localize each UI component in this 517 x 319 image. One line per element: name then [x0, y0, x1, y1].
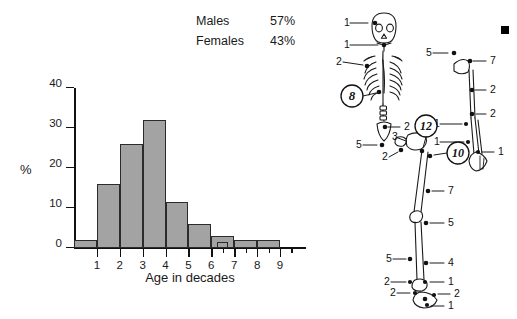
- age-histogram: % 010203040123456789 Age in decades: [0, 78, 330, 293]
- x-tick-minor: [246, 248, 247, 253]
- x-tick: [143, 248, 144, 257]
- histogram-bar: [143, 120, 166, 248]
- x-tick-minor: [291, 248, 292, 253]
- histogram-bar: [166, 202, 189, 248]
- legend-row-males: Males 57%: [196, 14, 310, 34]
- x-tick: [120, 248, 121, 257]
- y-tick-label: 40: [49, 77, 62, 89]
- femur-label-7: 7: [448, 184, 454, 196]
- circled-count-12: 12: [420, 119, 432, 133]
- legend-value-males: 57%: [270, 14, 310, 28]
- foot-label-1b: 1: [448, 299, 454, 311]
- x-tick: [166, 248, 167, 257]
- x-tick: [211, 248, 212, 257]
- hip-label-2: 2: [382, 150, 388, 162]
- legend-value-females: 43%: [270, 34, 310, 48]
- legend-label-males: Males: [196, 14, 270, 28]
- foot-label-2c: 2: [454, 287, 460, 299]
- pelvis-label-5: 5: [356, 138, 362, 150]
- x-tick-minor: [257, 248, 258, 253]
- skull-label-1a: 1: [344, 16, 350, 28]
- x-tick: [188, 248, 189, 257]
- sex-distribution-legend: Males 57% Females 43%: [196, 14, 310, 54]
- y-tick: [66, 87, 74, 89]
- y-tick: [66, 247, 74, 249]
- shoulder-label-2: 2: [336, 55, 342, 67]
- y-tick: [66, 127, 74, 129]
- histogram-bar: [120, 144, 143, 248]
- arm-label-1b: 1: [434, 135, 440, 147]
- y-axis-label: %: [20, 162, 32, 177]
- x-axis-label: Age in decades: [74, 270, 306, 285]
- knee-label-5: 5: [448, 216, 454, 228]
- histogram-bar: [74, 240, 97, 248]
- y-tick-label: 20: [49, 157, 62, 169]
- arm-label-2b: 2: [490, 107, 496, 119]
- plot-area: 010203040123456789: [74, 88, 296, 248]
- y-tick-label: 10: [49, 197, 62, 209]
- histogram-bar: [97, 184, 120, 248]
- y-tick: [66, 207, 74, 209]
- y-tick: [66, 167, 74, 169]
- x-tick-minor: [223, 248, 224, 253]
- histogram-bar: [217, 242, 228, 248]
- y-tick-label: 0: [56, 237, 62, 249]
- skeleton-diagram: 1 1 2 8 2 5: [330, 0, 517, 319]
- histogram-bar: [188, 224, 211, 248]
- figure-panel: Males 57% Females 43% % 0102030401234567…: [0, 0, 517, 319]
- x-tick-minor: [280, 248, 281, 253]
- circled-count-8: 8: [349, 88, 356, 103]
- arm-label-2a: 2: [490, 83, 496, 95]
- hip-label-3: 3: [392, 130, 398, 142]
- lowerleg-label-5: 5: [386, 252, 392, 264]
- circled-count-10: 10: [452, 146, 464, 160]
- histogram-bar: [234, 240, 257, 248]
- hand-label-1: 1: [498, 145, 504, 157]
- y-tick-label: 30: [49, 117, 62, 129]
- spine-label-2: 2: [404, 120, 410, 132]
- lowerleg-label-4: 4: [448, 256, 454, 268]
- foot-label-2b: 2: [390, 286, 396, 298]
- arm-label-5: 5: [426, 46, 432, 58]
- x-tick-minor: [234, 248, 235, 253]
- arm-label-7: 7: [490, 54, 496, 66]
- ankle-label-1a: 1: [448, 275, 454, 287]
- histogram-bar: [257, 240, 280, 248]
- skull-label-1b: 1: [344, 38, 350, 50]
- x-tick-minor: [269, 248, 270, 253]
- x-tick: [97, 248, 98, 257]
- legend-row-females: Females 43%: [196, 34, 310, 54]
- legend-label-females: Females: [196, 34, 270, 48]
